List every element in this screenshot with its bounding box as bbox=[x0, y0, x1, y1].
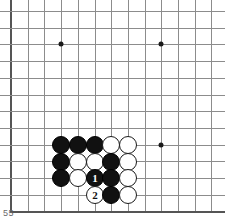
grid-line-vertical bbox=[161, 0, 162, 211]
grid-line-horizontal bbox=[0, 44, 225, 45]
grid-line-vertical bbox=[28, 0, 29, 211]
board-bottom-edge bbox=[10, 211, 225, 213]
grid-line-horizontal bbox=[0, 95, 225, 96]
grid-line-vertical bbox=[195, 0, 196, 211]
board-left-edge bbox=[10, 0, 12, 212]
star-point-icon bbox=[159, 42, 164, 47]
stone-black[interactable] bbox=[102, 169, 120, 187]
stone-move-number: 2 bbox=[92, 190, 98, 201]
diagram-caption: 55 bbox=[3, 208, 14, 218]
stone-move-number: 1 bbox=[92, 173, 98, 184]
grid-line-horizontal bbox=[0, 128, 225, 129]
grid-line-horizontal bbox=[0, 28, 225, 29]
stone-white[interactable] bbox=[119, 186, 137, 204]
stone-black[interactable] bbox=[102, 186, 120, 204]
star-point-icon bbox=[159, 143, 164, 148]
stone-white[interactable] bbox=[69, 169, 87, 187]
grid-line-horizontal bbox=[0, 111, 225, 112]
grid-line-horizontal bbox=[0, 61, 225, 62]
grid-line-vertical bbox=[44, 0, 45, 211]
stone-black[interactable] bbox=[52, 169, 70, 187]
grid-line-horizontal bbox=[0, 78, 225, 79]
board-surface: 12 bbox=[0, 0, 225, 218]
go-board-diagram: 12 55 bbox=[0, 0, 225, 218]
star-point-icon bbox=[59, 42, 64, 47]
stone-white[interactable] bbox=[119, 169, 137, 187]
stone-black[interactable] bbox=[69, 136, 87, 154]
stone-black[interactable] bbox=[52, 136, 70, 154]
grid-line-vertical bbox=[211, 0, 212, 211]
stone-white[interactable] bbox=[119, 136, 137, 154]
stone-white[interactable] bbox=[102, 136, 120, 154]
grid-line-vertical bbox=[178, 0, 179, 211]
grid-line-vertical bbox=[145, 0, 146, 211]
grid-line-horizontal bbox=[0, 11, 225, 12]
